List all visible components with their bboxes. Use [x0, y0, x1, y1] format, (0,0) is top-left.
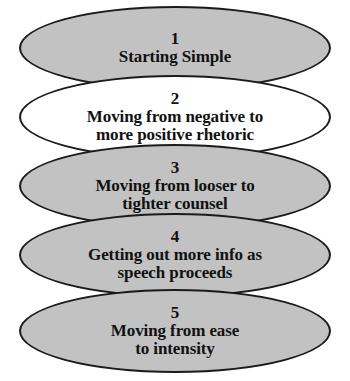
stage-number-3: 3 [171, 159, 180, 176]
stage-number-4: 4 [171, 228, 180, 245]
stage-number-2: 2 [171, 90, 180, 107]
stage-label-2: Moving from negative to more positive rh… [73, 108, 277, 144]
stage-number-5: 5 [171, 304, 180, 321]
stage-label-3: Moving from looser to tighter counsel [81, 177, 268, 213]
stage-label-4: Getting out more info as speech proceeds [74, 246, 276, 282]
stage-ellipse-5: 5 Moving from ease to intensity [19, 289, 331, 373]
stage-label-1: Starting Simple [105, 48, 245, 66]
ellipse-progression-diagram: 1 Starting Simple 2 Moving from negative… [0, 0, 350, 381]
stage-label-5: Moving from ease to intensity [97, 322, 253, 358]
stage-number-1: 1 [171, 30, 180, 47]
stage-ellipse-4: 4 Getting out more info as speech procee… [19, 213, 331, 297]
